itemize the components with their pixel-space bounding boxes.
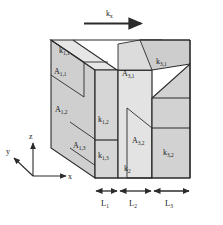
dim-label-L1: L1 [101,198,109,209]
axis-label-x: x [68,172,72,181]
dimension-arrows: L1 L2 L3 [96,191,189,209]
axis-label-z: z [29,132,33,141]
layer3-front-face [152,64,190,178]
label-kx: kx [106,9,113,19]
dim-label-L3: L3 [165,198,173,209]
dim-label-L2: L2 [129,198,137,209]
axis-label-y: y [6,147,10,156]
axis-y-line [14,158,33,176]
diagram-canvas: k1,1 A1,1 A1,2 A1,3 k1,2 k1,3 k2 A3,1 k3… [0,0,223,225]
thermal-resistance-block-diagram: k1,1 A1,1 A1,2 A1,3 k1,2 k1,3 k2 A3,1 k3… [0,0,223,225]
